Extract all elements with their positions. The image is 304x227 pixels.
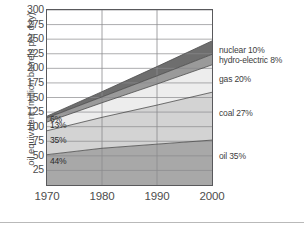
y-tick-50: 50 <box>6 150 44 161</box>
y-tick-75: 75 <box>6 135 44 146</box>
legend-item-gas: gas 20% <box>219 74 251 84</box>
legend: nuclear 10%hydro-electric 8%gas 20%coal … <box>219 0 304 227</box>
inplot-label-13pct: 13% <box>50 121 66 130</box>
plot-area <box>46 9 213 186</box>
y-tick-300: 300 <box>6 4 44 15</box>
y-tick-200: 200 <box>6 62 44 73</box>
legend-item-nuclear: nuclear 10% <box>219 45 265 55</box>
legend-item-hydro-electric: hydro-electric 8% <box>219 55 282 65</box>
y-tick-275: 275 <box>6 19 44 30</box>
y-tick-250: 250 <box>6 33 44 44</box>
inplot-label-44pct: 44% <box>50 157 66 166</box>
chart-screenshot: oil equivalent (million barrels per day)… <box>0 0 304 227</box>
bottom-divider <box>0 222 304 223</box>
y-tick-150: 150 <box>6 92 44 103</box>
x-tick-1990: 1990 <box>127 190 187 202</box>
y-tick-125: 125 <box>6 106 44 117</box>
y-tick-25: 25 <box>6 164 44 175</box>
x-tick-1970: 1970 <box>17 190 77 202</box>
legend-item-oil: oil 35% <box>219 151 246 161</box>
y-tick-100: 100 <box>6 121 44 132</box>
stacked-area-svg <box>47 10 212 185</box>
legend-item-coal: coal 27% <box>219 108 253 118</box>
y-tick-225: 225 <box>6 48 44 59</box>
inplot-label-35pct: 35% <box>50 136 66 145</box>
x-tick-1980: 1980 <box>72 190 132 202</box>
y-tick-175: 175 <box>6 77 44 88</box>
